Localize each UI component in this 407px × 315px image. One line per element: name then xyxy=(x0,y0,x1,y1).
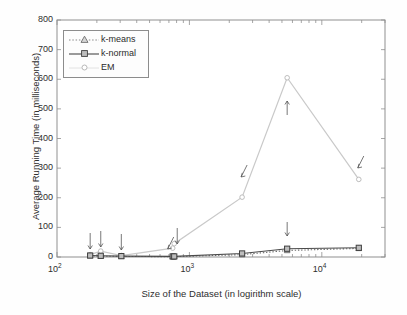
square-marker-icon xyxy=(80,49,89,58)
data-point-em xyxy=(240,195,245,200)
plot-svg xyxy=(0,0,407,315)
circle-marker-icon xyxy=(80,63,89,72)
legend-entry-k-means: k-means xyxy=(67,33,147,47)
data-point-k-normal xyxy=(88,253,93,258)
legend-entry-k-normal: k-normal xyxy=(67,47,147,61)
data-point-k-normal xyxy=(119,254,124,259)
legend: k-means k-normal EM xyxy=(63,30,149,78)
data-point-k-normal xyxy=(356,245,361,250)
data-point-k-normal xyxy=(285,246,290,251)
legend-label-k-means: k-means xyxy=(101,34,136,44)
chart-figure: Average Running Time (in milliseconds) S… xyxy=(0,0,407,315)
data-point-em xyxy=(285,75,290,80)
data-point-k-normal xyxy=(240,251,245,256)
legend-label-k-normal: k-normal xyxy=(101,48,136,58)
legend-entry-em: EM xyxy=(67,61,147,75)
triangle-marker-icon xyxy=(80,35,89,44)
legend-label-em: EM xyxy=(101,62,115,72)
data-point-k-normal xyxy=(98,253,103,258)
data-point-em xyxy=(356,177,361,182)
data-point-k-normal xyxy=(172,254,177,259)
